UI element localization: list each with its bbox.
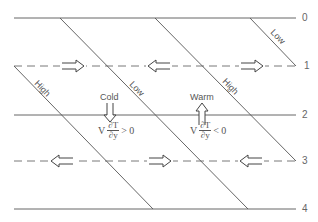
warm-label: Warm [190,93,214,102]
warm-formula: V ∂T ∂y < 0 [190,121,226,140]
formula-denominator: ∂y [201,131,210,140]
formula-relation: > 0 [121,126,134,136]
arrow-right-icon [147,155,173,167]
level-label-3: 3 [302,156,308,166]
formula-prefix: V [98,126,105,136]
formula-relation: < 0 [213,126,226,136]
formula-denominator: ∂y [109,131,118,140]
arrow-left-icon [238,155,264,167]
formula-prefix: V [190,126,197,136]
arrow-left-icon [49,155,75,167]
level-label-0: 0 [302,13,308,23]
diagram-canvas: 0 1 2 3 4 High Low High Low Cold V ∂T ∂y… [0,0,318,222]
arrow-right-icon [239,60,265,72]
diagonal-low-center [60,18,248,209]
level-label-4: 4 [302,204,308,214]
level-label-1: 1 [304,61,310,71]
cold-formula: V ∂T ∂y > 0 [98,121,134,140]
formula-fraction: ∂T ∂y [107,121,119,140]
formula-fraction: ∂T ∂y [199,121,211,140]
level-label-2: 2 [302,110,308,120]
arrow-right-icon [60,60,86,72]
diagonal-low-right [250,18,296,66]
cold-label: Cold [100,93,119,102]
arrow-left-icon [146,60,172,72]
